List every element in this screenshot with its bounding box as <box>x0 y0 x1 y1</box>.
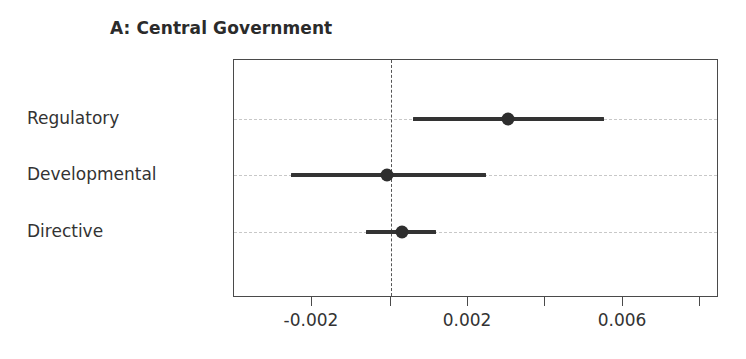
xtick-label-0002: 0.002 <box>443 310 492 330</box>
plot-area <box>233 59 718 297</box>
xtick-0004 <box>544 297 545 306</box>
gridline-directive <box>234 232 717 233</box>
category-label-developmental: Developmental <box>27 164 157 184</box>
xtick-0006 <box>622 297 623 306</box>
category-label-regulatory: Regulatory <box>27 108 119 128</box>
point-regulatory <box>502 113 515 126</box>
xtick-label-minus-0002: -0.002 <box>284 310 339 330</box>
xtick-0002 <box>467 297 468 306</box>
chart-title: A: Central Government <box>110 18 332 38</box>
forest-plot-figure: A: Central Government Regulatory Develop… <box>0 0 746 359</box>
category-label-directive: Directive <box>27 221 103 241</box>
point-developmental <box>381 169 394 182</box>
xtick-zero <box>390 297 391 306</box>
point-directive <box>396 226 409 239</box>
xtick-label-0006: 0.006 <box>598 310 647 330</box>
xtick-0008 <box>699 297 700 306</box>
xtick-minus-0002 <box>311 297 312 306</box>
